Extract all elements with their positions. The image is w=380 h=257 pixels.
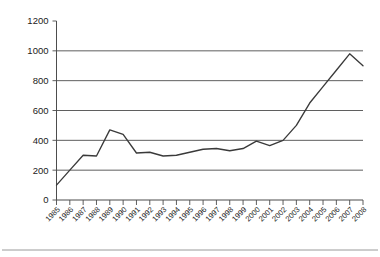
y-axis-tick-label: 1200 [27, 15, 48, 26]
y-axis-tick-label: 0 [43, 194, 48, 205]
y-axis-tick-label: 400 [33, 135, 49, 146]
line-chart-figure: 020040060080010001200 198519861987198819… [0, 0, 380, 257]
chart-canvas: 020040060080010001200 198519861987198819… [0, 0, 380, 257]
y-axis-tick-label: 600 [33, 105, 49, 116]
y-axis-tick-label: 200 [33, 165, 49, 176]
y-axis-tick-label: 800 [33, 75, 49, 86]
y-axis-tick-label: 1000 [27, 45, 48, 56]
